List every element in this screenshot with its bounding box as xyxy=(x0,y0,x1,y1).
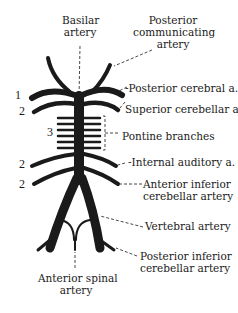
ia-left xyxy=(32,154,76,166)
basilar-label: Basilar artery xyxy=(62,14,98,38)
number-2-mid: 2 xyxy=(19,157,25,172)
asa xyxy=(60,220,90,250)
basilar-label-line1: Basilar xyxy=(62,14,98,26)
vertebral-label: Vertebral artery xyxy=(145,220,231,232)
superior-cerebellar-label: Superior cerebellar a. xyxy=(125,103,238,115)
sca-right xyxy=(84,103,118,110)
internal-auditory-label: -Internal auditory a. xyxy=(128,156,235,168)
aica-right xyxy=(84,168,118,184)
vertebral-right xyxy=(82,178,100,248)
vessels xyxy=(32,58,122,250)
aica-label-line2: cerebellar artery xyxy=(143,190,233,202)
aica-label: Anterior inferior cerebellar artery xyxy=(143,178,233,202)
pca-right xyxy=(80,90,122,96)
pca-left xyxy=(32,91,78,98)
pcom-label-line3: artery xyxy=(133,38,213,50)
number-1: 1 xyxy=(15,88,21,103)
sca-left xyxy=(34,103,76,112)
pcom-left xyxy=(48,58,70,92)
pontine-branches-label: Pontine branches xyxy=(122,130,215,142)
number-2-top: 2 xyxy=(19,104,25,119)
number-3: 3 xyxy=(47,125,53,140)
ia-right xyxy=(84,154,116,166)
posterior-cerebral-label: -Posterior cerebral a. xyxy=(125,82,238,94)
aica-left xyxy=(34,168,76,184)
number-2-bottom: 2 xyxy=(19,177,25,192)
asa-label-line2: artery xyxy=(38,284,114,296)
asa-label-line1: Anterior spinal xyxy=(38,272,114,284)
pica-label: Posterior inferior cerebellar artery xyxy=(140,250,232,274)
pica-label-line2: cerebellar artery xyxy=(140,262,232,274)
aica-label-line1: Anterior inferior xyxy=(143,178,233,190)
basilar-label-line2: artery xyxy=(62,26,98,38)
pcom-label: Posterior communicating artery xyxy=(133,14,213,50)
pica-label-line1: Posterior inferior xyxy=(140,250,232,262)
pontine-right xyxy=(84,118,100,148)
pcom-label-line2: communicating xyxy=(133,26,213,38)
asa-label: Anterior spinal artery xyxy=(38,272,114,296)
pontine-left xyxy=(58,118,74,148)
pcom-label-line1: Posterior xyxy=(133,14,213,26)
